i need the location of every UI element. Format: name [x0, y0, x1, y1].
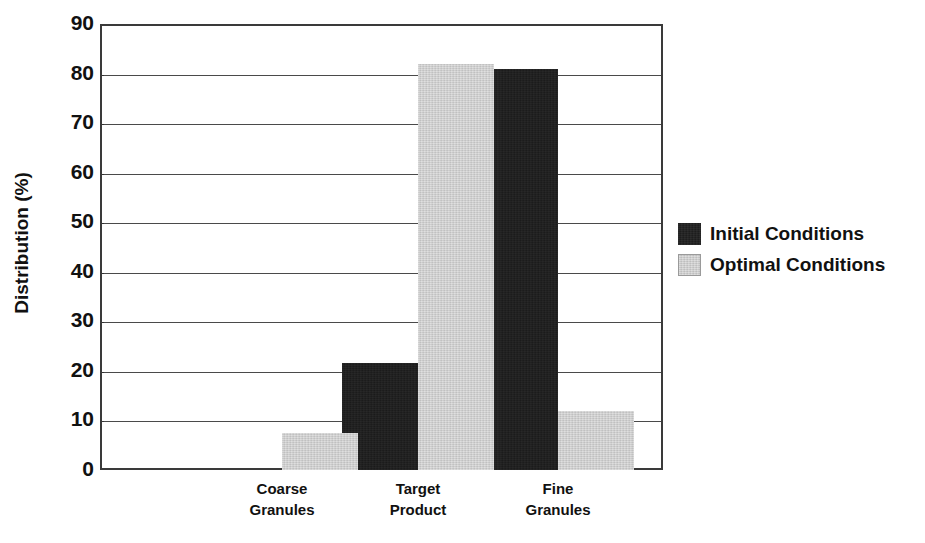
y-tick-label: 50: [44, 210, 94, 231]
x-axis-label-line: Product: [343, 499, 493, 520]
x-axis-label-line: Coarse: [207, 478, 357, 499]
x-axis-label-line: Granules: [483, 499, 633, 520]
y-tick-label: 10: [44, 408, 94, 429]
legend-label: Optimal Conditions: [710, 254, 885, 276]
y-tick-label: 70: [44, 111, 94, 132]
y-tick-label: 30: [44, 309, 94, 330]
bars-layer: [100, 24, 663, 470]
legend-item[interactable]: Optimal Conditions: [678, 249, 918, 280]
y-tick-label: 80: [44, 62, 94, 83]
y-axis-title: Distribution (%): [11, 133, 33, 353]
legend-swatch-light: [678, 254, 701, 276]
x-axis-label-line: Fine: [483, 478, 633, 499]
y-tick-label: 20: [44, 359, 94, 380]
x-axis-label-line: Target: [343, 478, 493, 499]
x-axis-label-coarse-granules: CoarseGranules: [207, 478, 357, 521]
y-tick-label: 90: [44, 12, 94, 33]
bar-coarse-granules-optimal-conditions: [282, 433, 358, 470]
x-axis-label-line: Granules: [207, 499, 357, 520]
x-axis-category-labels: CoarseGranulesTargetProductFineGranules: [100, 478, 663, 538]
chart-legend: Initial ConditionsOptimal Conditions: [678, 218, 918, 280]
y-axis-tick-labels: 9080706050403020100: [44, 0, 94, 500]
y-tick-label: 40: [44, 260, 94, 281]
y-tick-label: 60: [44, 161, 94, 182]
bar-fine-granules-optimal-conditions: [558, 411, 634, 470]
x-axis-label-target-product: TargetProduct: [343, 478, 493, 521]
legend-item[interactable]: Initial Conditions: [678, 218, 918, 249]
x-axis-label-fine-granules: FineGranules: [483, 478, 633, 521]
legend-label: Initial Conditions: [710, 223, 864, 245]
y-tick-label: 0: [44, 458, 94, 479]
bar-target-product-optimal-conditions: [418, 64, 494, 470]
legend-swatch-dark: [678, 223, 701, 245]
bar-chart-figure: Distribution (%) 9080706050403020100 Coa…: [0, 0, 925, 543]
